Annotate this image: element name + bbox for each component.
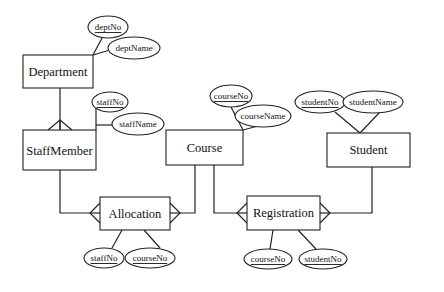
entity-staffmember: StaffMember [23,130,96,170]
line-studentno [335,112,360,133]
attribute-label: courseNo [251,254,286,264]
attribute-label: studentName [349,97,397,107]
entity-registration: Registration [247,196,320,230]
attr-registration-courseno: courseNo [244,249,292,269]
attr-staffmember-staffname: staffName [112,113,164,135]
line-staffmember-allocation [60,170,90,213]
line-course-registration [214,165,237,213]
attribute-label: staffNo [97,97,124,107]
attribute-label: staffNo [91,253,118,263]
attribute-label: staffName [119,119,156,129]
line-student-registration [330,167,372,213]
line-course-allocation [180,165,195,213]
attr-student-studentname: studentName [343,91,403,113]
line-alloc-staffno [112,230,122,248]
line-alloc-courseno [144,230,160,248]
entity-student: Student [327,133,410,167]
attribute-label: courseNo [214,91,249,101]
er-diagram-svg: Department StaffMember Course Student Al… [0,0,444,292]
entity-label: Registration [253,206,315,220]
entity-allocation: Allocation [100,197,170,230]
line-reg-courseno [270,230,273,249]
attr-department-deptname: deptName [108,37,160,59]
entity-label: Student [349,143,388,157]
entity-label: StaffMember [26,144,93,158]
attr-student-studentno: studentNo [295,91,345,113]
attr-registration-studentno: studentNo [299,249,347,269]
attribute-label: deptNo [95,22,122,32]
attr-department-deptno: deptNo [88,16,128,38]
attribute-label: courseNo [133,253,168,263]
entity-label: Course [187,141,223,155]
er-diagram: Department StaffMember Course Student Al… [0,0,444,292]
attribute-label: studentNo [302,97,339,107]
attr-allocation-staffno: staffNo [84,248,124,268]
attribute-label: courseName [241,111,286,121]
entity-label: Allocation [109,207,163,221]
entity-label: Department [28,65,88,79]
attr-allocation-courseno: courseNo [125,248,175,268]
line-studentname [360,112,380,133]
entity-course: Course [166,130,243,165]
attr-course-courseno: courseNo [210,85,252,107]
attribute-label: deptName [116,43,153,53]
attr-staffmember-staffno: staffNo [92,92,128,112]
line-reg-studentno [298,230,316,249]
entity-department: Department [23,55,93,88]
attribute-label: studentNo [305,254,342,264]
attr-course-coursename: courseName [235,105,291,127]
